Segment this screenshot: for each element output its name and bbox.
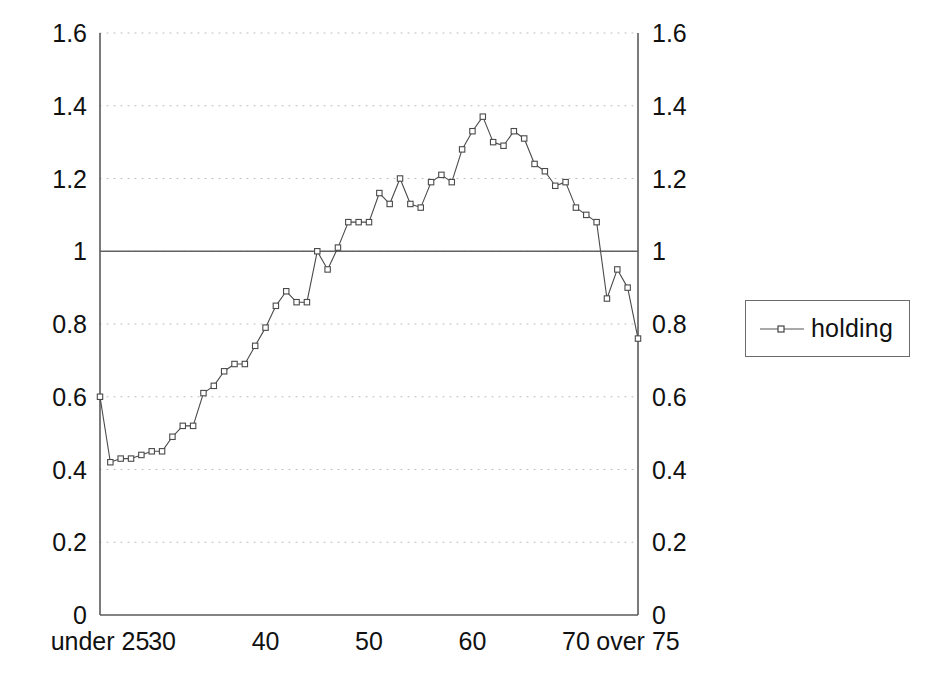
right-axis-tick-labels: 00.20.40.60.811.21.41.6 xyxy=(652,19,687,629)
xtick-70: 70 xyxy=(562,627,590,655)
left-ytick-1: 1 xyxy=(73,237,87,265)
right-ytick-1.6: 1.6 xyxy=(652,19,687,47)
left-ytick-0.8: 0.8 xyxy=(52,310,87,338)
legend-label-holding: holding xyxy=(811,316,893,341)
right-ytick-0.6: 0.6 xyxy=(652,383,687,411)
right-ytick-0: 0 xyxy=(652,601,666,629)
right-ytick-0.4: 0.4 xyxy=(652,456,687,484)
left-ytick-1.2: 1.2 xyxy=(52,165,87,193)
x-axis-tick-labels: under 253040506070over 75 xyxy=(51,627,680,655)
line-chart-svg: 00.20.40.60.811.21.41.6 00.20.40.60.811.… xyxy=(0,0,700,688)
left-ytick-1.4: 1.4 xyxy=(52,92,87,120)
left-ytick-1.6: 1.6 xyxy=(52,19,87,47)
left-ytick-0: 0 xyxy=(73,601,87,629)
chart-canvas: 00.20.40.60.811.21.41.6 00.20.40.60.811.… xyxy=(0,0,700,688)
right-ytick-1.4: 1.4 xyxy=(652,92,687,120)
right-ytick-1: 1 xyxy=(652,237,666,265)
xtick-over-75: over 75 xyxy=(596,627,679,655)
xtick-30: 30 xyxy=(148,627,176,655)
series-holding xyxy=(97,114,640,465)
left-axis-tick-labels: 00.20.40.60.811.21.41.6 xyxy=(52,19,87,629)
legend: holding xyxy=(745,300,910,357)
xtick-50: 50 xyxy=(355,627,383,655)
left-ytick-0.4: 0.4 xyxy=(52,456,87,484)
axis-frame xyxy=(100,33,638,615)
right-ytick-1.2: 1.2 xyxy=(652,165,687,193)
left-ytick-0.2: 0.2 xyxy=(52,528,87,556)
left-ytick-0.6: 0.6 xyxy=(52,383,87,411)
xtick-40: 40 xyxy=(252,627,280,655)
line-with-square-marker-icon xyxy=(759,322,805,336)
legend-entry-holding: holding xyxy=(746,316,893,341)
chart-page: 00.20.40.60.811.21.41.6 00.20.40.60.811.… xyxy=(0,0,942,688)
xtick-under-25: under 25 xyxy=(51,627,150,655)
right-ytick-0.8: 0.8 xyxy=(652,310,687,338)
xtick-60: 60 xyxy=(459,627,487,655)
gridlines xyxy=(100,33,638,542)
right-ytick-0.2: 0.2 xyxy=(652,528,687,556)
